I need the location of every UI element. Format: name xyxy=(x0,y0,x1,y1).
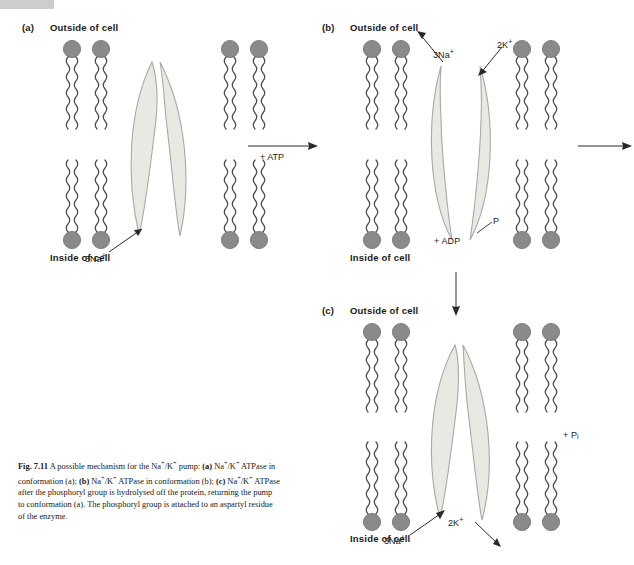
sodium-inward-arrow-a xyxy=(109,229,142,252)
panel-c: (c) Outside of cell Inside of cell xyxy=(300,288,600,565)
lipid-right-upper-2 xyxy=(250,40,267,129)
lipid-right-lower-2 xyxy=(250,160,267,249)
lipid-right-upper-1 xyxy=(221,40,238,129)
lipid-left-lower-2 xyxy=(92,160,109,249)
figure-caption: Fig. 7.11 A possible mechanism for the N… xyxy=(18,458,280,523)
panel-b-adp-label: + ADP xyxy=(434,236,460,246)
lipid-right-lower-1 xyxy=(221,160,238,249)
lipid-left-lower-1 xyxy=(63,160,80,249)
arrow-b-out-graphic xyxy=(578,138,634,158)
caption-body: A possible mechanism for the Na+/K+ pump… xyxy=(18,462,280,521)
lipid-left-lower-1 xyxy=(363,160,380,249)
lipid-right-lower-2 xyxy=(542,160,559,249)
lipid-left-upper-2 xyxy=(392,40,409,129)
phosphoryl-pointer-b xyxy=(477,222,492,233)
lipid-left-upper-2 xyxy=(392,323,409,412)
lipid-right-upper-1 xyxy=(513,323,530,412)
figure-number: Fig. 7.11 xyxy=(18,462,48,471)
potassium-inward-arrow-b xyxy=(478,47,502,76)
potassium-outward-arrow-c xyxy=(475,522,501,547)
lipid-right-lower-2 xyxy=(542,442,559,531)
lipid-right-lower-1 xyxy=(513,442,530,531)
protein-b xyxy=(431,66,490,240)
lipid-right-upper-1 xyxy=(513,40,530,129)
lipid-left-upper-1 xyxy=(63,40,80,129)
lipid-left-lower-1 xyxy=(363,442,380,531)
panel-b-sodium-label: 3Na+ xyxy=(433,48,454,60)
protein-a xyxy=(131,62,186,236)
panel-a-sodium-label: 3Na+ xyxy=(85,252,106,264)
lipid-right-upper-2 xyxy=(542,323,559,412)
panel-b-phosphoryl-label: P xyxy=(493,216,499,226)
lipid-left-lower-2 xyxy=(392,442,409,531)
protein-c xyxy=(431,345,489,520)
arrow-a-to-b-label: + ATP xyxy=(260,152,284,162)
panel-c-pi-label: + Pi xyxy=(563,430,579,440)
panel-b: (b) Outside of cell Inside of cell xyxy=(300,0,600,290)
lipid-left-upper-2 xyxy=(92,40,109,129)
panel-b-graphic xyxy=(300,0,600,290)
lipid-right-upper-2 xyxy=(542,40,559,129)
panel-c-sodium-label: 3Na+ xyxy=(384,534,405,546)
lipid-left-upper-1 xyxy=(363,40,380,129)
lipid-left-lower-2 xyxy=(392,160,409,249)
panel-b-potassium-label: 2K+ xyxy=(497,38,512,50)
panel-c-potassium-label: 2K+ xyxy=(448,516,463,528)
sodium-inward-arrow-c xyxy=(410,510,445,535)
lipid-right-lower-1 xyxy=(513,160,530,249)
arrow-b-out xyxy=(578,138,634,160)
lipid-left-upper-1 xyxy=(363,323,380,412)
